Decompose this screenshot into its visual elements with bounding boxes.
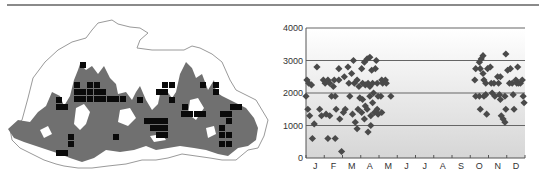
occurrence-square <box>219 141 225 147</box>
occurrence-square <box>80 96 86 102</box>
occurrence-square <box>182 104 188 110</box>
x-tick-label: J <box>313 161 318 171</box>
occurrence-square <box>62 104 68 110</box>
x-tick-label: J <box>422 161 427 171</box>
distribution-map <box>0 15 270 175</box>
map-svg <box>0 15 270 175</box>
occurrence-square <box>113 96 119 102</box>
occurrence-square <box>80 89 86 95</box>
y-tick-label: 0 <box>298 153 303 163</box>
occurrence-square <box>56 150 62 156</box>
occurrence-square <box>144 118 150 124</box>
occurrence-square <box>87 96 93 102</box>
occurrence-square <box>220 111 226 117</box>
occurrence-square <box>169 97 175 103</box>
occurrence-square <box>87 89 93 95</box>
occurrence-square <box>156 118 162 124</box>
y-tick-label: 4000 <box>283 23 303 33</box>
occurrence-square <box>194 111 200 117</box>
occurrence-square <box>87 82 93 88</box>
occurrence-square <box>162 89 168 95</box>
occurrence-square <box>74 89 80 95</box>
x-tick-label: J <box>404 161 409 171</box>
occurrence-square <box>226 111 232 117</box>
occurrence-square <box>120 96 126 102</box>
x-tick-label: M <box>348 161 356 171</box>
occurrence-square <box>80 62 86 68</box>
occurrence-square <box>226 132 232 138</box>
x-tick-label: F <box>331 161 337 171</box>
y-tick-label: 1000 <box>283 121 303 131</box>
occurrence-square <box>219 132 225 138</box>
occurrence-square <box>169 82 175 88</box>
chart-svg: 01000200030004000 JFMAMJJASOND <box>270 0 539 179</box>
occurrence-square <box>187 111 193 117</box>
x-tick-label: O <box>476 161 483 171</box>
occurrence-square <box>150 125 156 131</box>
occurrence-square <box>230 104 236 110</box>
x-tick-label: A <box>367 161 373 171</box>
occurrence-square <box>162 82 168 88</box>
occurrence-square <box>100 96 106 102</box>
occurrence-square <box>68 134 74 140</box>
occurrence-square <box>162 118 168 124</box>
occurrence-square <box>100 89 106 95</box>
occurrence-square <box>200 111 206 117</box>
y-tick-labels: 01000200030004000 <box>283 23 303 163</box>
occurrence-square <box>200 82 206 88</box>
occurrence-square <box>94 96 100 102</box>
occurrence-square <box>219 125 225 131</box>
y-tick-label: 3000 <box>283 56 303 66</box>
x-tick-label: D <box>513 161 520 171</box>
occurrence-square <box>181 111 187 117</box>
occurrence-square <box>226 118 232 124</box>
occurrence-square <box>94 89 100 95</box>
occurrence-square <box>236 104 242 110</box>
occurrence-square <box>162 132 168 138</box>
occurrence-square <box>213 89 219 95</box>
occurrence-square <box>56 104 62 110</box>
x-tick-label: M <box>384 161 392 171</box>
occurrence-square <box>74 96 80 102</box>
occurrence-square <box>74 82 80 88</box>
x-tick-label: A <box>440 161 446 171</box>
occurrence-square <box>113 134 119 140</box>
occurrence-square <box>150 118 156 124</box>
occurrence-square <box>226 141 232 147</box>
occurrence-square <box>107 96 113 102</box>
occurrence-square <box>156 132 162 138</box>
occurrence-square <box>213 82 219 88</box>
occurrence-square <box>94 82 100 88</box>
y-tick-label: 2000 <box>283 88 303 98</box>
occurrence-square <box>56 97 62 103</box>
occurrence-square <box>156 125 162 131</box>
occurrence-square <box>162 125 168 131</box>
occurrence-square <box>68 141 74 147</box>
x-tick-label: S <box>458 161 464 171</box>
x-tick-label: N <box>494 161 501 171</box>
occurrence-square <box>156 89 162 95</box>
elevation-chart: 01000200030004000 JFMAMJJASOND <box>270 0 539 179</box>
occurrence-square <box>137 97 143 103</box>
occurrence-square <box>62 150 68 156</box>
